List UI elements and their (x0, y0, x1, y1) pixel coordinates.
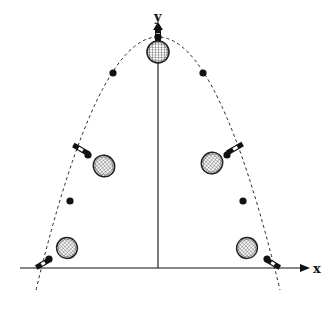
y-axis-label: y (153, 9, 162, 24)
racket-top (147, 22, 169, 63)
com-dot (263, 255, 270, 262)
racket-upper-left (72, 143, 119, 181)
com-dot (84, 151, 91, 158)
racket-lower-left (35, 233, 82, 269)
racket-lower-right (232, 233, 281, 269)
x-axis-label: x (313, 261, 321, 276)
x-axis (20, 264, 310, 272)
com-dot (199, 69, 206, 76)
com-dot (239, 197, 246, 204)
com-dot (66, 197, 73, 204)
com-dot (223, 151, 230, 158)
com-dot (154, 33, 161, 40)
com-dot (45, 255, 52, 262)
com-dot (109, 69, 116, 76)
racket-upper-right (197, 142, 244, 178)
projectile-diagram: x y (0, 0, 336, 312)
